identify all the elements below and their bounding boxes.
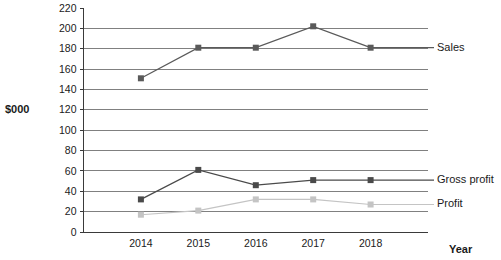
data-point-marker <box>310 23 316 29</box>
data-point-marker <box>310 196 316 202</box>
data-point-marker <box>368 177 374 183</box>
x-axis-title: Year <box>449 243 473 255</box>
chart-canvas: 020406080100120140160180200220 201420152… <box>0 0 501 260</box>
y-tick-label: 20 <box>65 205 77 217</box>
data-point-marker <box>253 182 259 188</box>
x-tick-label: 2014 <box>129 237 153 249</box>
y-tick-label: 200 <box>59 22 77 34</box>
data-point-marker <box>195 167 201 173</box>
data-point-marker <box>138 75 144 81</box>
y-tick-label: 100 <box>59 124 77 136</box>
series-label-profit: Profit <box>437 197 463 209</box>
data-point-marker <box>253 45 259 51</box>
y-tick-label: 80 <box>65 144 77 156</box>
data-point-marker <box>310 177 316 183</box>
y-tick-label: 120 <box>59 103 77 115</box>
series-label-sales: Sales <box>437 41 465 53</box>
data-point-marker <box>368 45 374 51</box>
data-point-marker <box>138 212 144 218</box>
x-tick-label: 2018 <box>359 237 383 249</box>
x-tick-label: 2017 <box>302 237 326 249</box>
line-chart: 020406080100120140160180200220 201420152… <box>0 0 501 260</box>
data-point-marker <box>195 208 201 214</box>
data-point-marker <box>368 202 374 208</box>
data-point-marker <box>138 196 144 202</box>
y-tick-label: 60 <box>65 165 77 177</box>
y-tick-label: 40 <box>65 185 77 197</box>
data-point-marker <box>195 45 201 51</box>
x-tick-label: 2015 <box>187 237 211 249</box>
y-tick-label: 220 <box>59 2 77 14</box>
y-tick-label: 180 <box>59 42 77 54</box>
y-tick-label: 140 <box>59 83 77 95</box>
data-point-marker <box>253 196 259 202</box>
x-tick-label: 2016 <box>244 237 268 249</box>
y-axis-title: $000 <box>5 103 29 115</box>
series-label-gross-profit: Gross profit <box>437 173 494 185</box>
y-tick-label: 160 <box>59 63 77 75</box>
y-tick-label: 0 <box>71 226 77 238</box>
